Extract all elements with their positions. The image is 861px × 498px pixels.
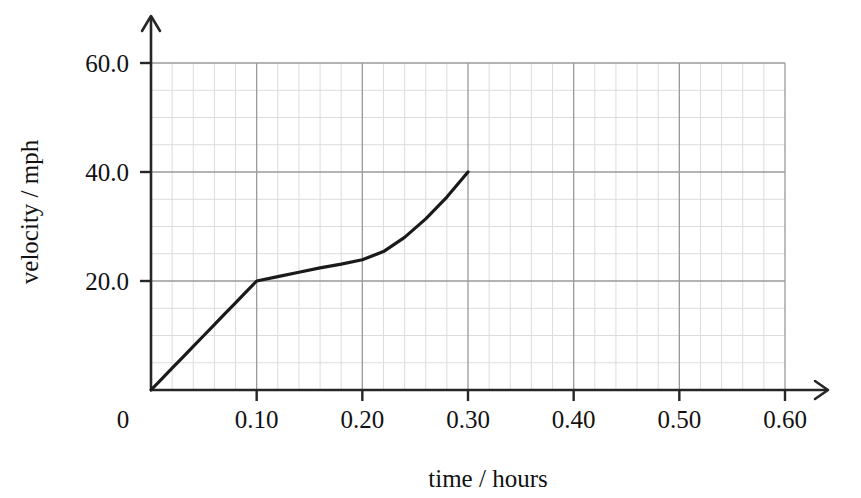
velocity-time-chart: 00.100.200.300.400.500.60 20.040.060.0 t… xyxy=(0,0,861,498)
x-tick-label: 0.20 xyxy=(340,406,384,433)
y-tick-label: 60.0 xyxy=(85,50,129,77)
x-tick-label: 0.30 xyxy=(446,406,490,433)
x-tick-label: 0.60 xyxy=(763,406,807,433)
y-tick-label: 20.0 xyxy=(85,268,129,295)
x-tick-label: 0.10 xyxy=(235,406,279,433)
x-axis-title: time / hours xyxy=(428,465,547,492)
x-tick-label: 0 xyxy=(117,406,130,433)
x-tick-label: 0.50 xyxy=(657,406,701,433)
y-axis-title: velocity / mph xyxy=(16,139,43,284)
chart-page: 00.100.200.300.400.500.60 20.040.060.0 t… xyxy=(0,0,861,498)
x-tick-label: 0.40 xyxy=(552,406,596,433)
y-tick-label: 40.0 xyxy=(85,159,129,186)
